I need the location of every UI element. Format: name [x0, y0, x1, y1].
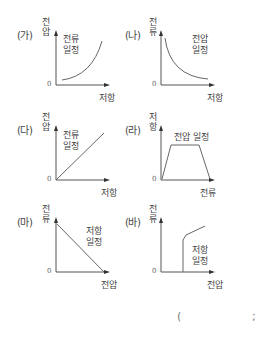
- x-axis-label: 전압: [207, 278, 223, 291]
- condition-note: 저항일정: [192, 245, 208, 267]
- origin-label: 0: [152, 267, 156, 275]
- answer-blank-open: (: [177, 310, 181, 323]
- graph-ba: (바) 전류 0 저항일정 전압: [0, 0, 128, 100]
- answer-blank-close: ;: [252, 310, 256, 323]
- graph-ba-plot: [0, 0, 257, 300]
